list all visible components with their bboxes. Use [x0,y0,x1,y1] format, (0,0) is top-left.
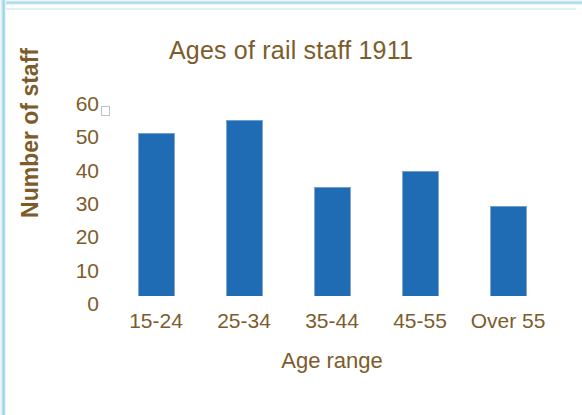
legend-placeholder-square-icon [101,106,110,116]
y-axis-tick-labels: 0102030405060 [55,104,99,304]
y-axis-tick-label: 40 [55,164,99,178]
bar-slot [288,104,376,296]
plot-area [112,104,552,296]
x-axis-tick-label: 35-44 [282,309,382,333]
bar-slot [376,104,464,296]
y-axis-tick-label: 30 [55,197,99,211]
bar[interactable] [490,206,527,296]
y-axis-tick-label: 20 [55,230,99,244]
chart-title: Ages of rail staff 1911 [0,36,582,65]
bar[interactable] [138,133,175,296]
x-axis-title: Age range [112,348,552,374]
y-axis-tick-label: 0 [55,297,99,311]
y-axis-title: Number of staff [15,43,45,223]
chart-screenshot: Ages of rail staff 1911 Number of staff … [0,0,582,415]
bar[interactable] [226,120,263,296]
x-axis-tick-label: 45-55 [370,309,470,333]
x-axis-tick-label: 15-24 [106,309,206,333]
x-axis-tick-label: Over 55 [458,309,558,333]
x-axis-tick-label: 25-34 [194,309,294,333]
bar-slot [112,104,200,296]
bar-chart: Ages of rail staff 1911 Number of staff … [0,0,582,415]
y-axis-tick-label: 60 [55,97,99,111]
bar[interactable] [314,187,351,296]
x-axis-tick-labels: 15-2425-3435-4445-55Over 55 [112,309,552,335]
bar-slot [200,104,288,296]
bar[interactable] [402,171,439,296]
y-axis-tick-label: 10 [55,264,99,278]
y-axis-tick-label: 50 [55,130,99,144]
bar-slot [464,104,552,296]
